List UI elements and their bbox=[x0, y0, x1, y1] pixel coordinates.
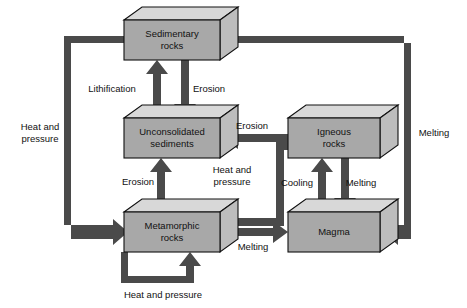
edge-label-erosion-sed-to-unc: Erosion bbox=[193, 83, 225, 94]
edge-label-erosion-ign-to-unc: Erosion bbox=[236, 120, 268, 131]
node-unconsolidated-sediments[interactable]: Unconsolidated sediments bbox=[124, 105, 238, 158]
node-label-unconsolidated-line2: sediments bbox=[150, 138, 194, 149]
node-label-metamorphic-line1: Metamorphic bbox=[145, 220, 200, 231]
edge-label-melting-met-to-magma: Melting bbox=[238, 241, 269, 252]
edge-heat-pressure-met-self bbox=[121, 252, 201, 283]
node-label-igneous-line1: Igneous bbox=[317, 126, 351, 137]
edge-label-heat-pressure-ign-to-met-line2: pressure bbox=[214, 176, 251, 187]
edge-label-heat-pressure-met-self: Heat and pressure bbox=[124, 289, 202, 300]
edge-label-heat-pressure-sed-to-met-line2: pressure bbox=[22, 133, 59, 144]
node-label-metamorphic-line2: rocks bbox=[161, 232, 184, 243]
edge-label-melting-ign-to-magma: Melting bbox=[346, 177, 377, 188]
edge-label-lithification: Lithification bbox=[88, 83, 136, 94]
edge-label-heat-pressure-ign-to-met-line1: Heat and bbox=[213, 164, 252, 175]
edge-label-cooling: Cooling bbox=[281, 177, 313, 188]
node-label-sedimentary-line1: Sedimentary bbox=[145, 28, 199, 39]
node-label-sedimentary-line2: rocks bbox=[161, 40, 184, 51]
rock-cycle-diagram: Sedimentary rocks Unconsolidated sedimen… bbox=[0, 0, 467, 308]
edge-label-melting-sed-to-magma: Melting bbox=[419, 127, 450, 138]
node-metamorphic-rocks[interactable]: Metamorphic rocks bbox=[124, 199, 238, 252]
node-label-igneous-line2: rocks bbox=[323, 138, 346, 149]
edge-label-heat-pressure-sed-to-met-line1: Heat and bbox=[21, 121, 60, 132]
edge-label-erosion-met-to-unc: Erosion bbox=[122, 176, 154, 187]
node-label-unconsolidated-line1: Unconsolidated bbox=[139, 126, 205, 137]
node-igneous-rocks[interactable]: Igneous rocks bbox=[288, 105, 398, 158]
node-magma[interactable]: Magma bbox=[288, 199, 398, 252]
edge-heat-pressure-sed-to-met bbox=[64, 36, 128, 245]
node-label-magma: Magma bbox=[318, 226, 350, 237]
node-sedimentary-rocks[interactable]: Sedimentary rocks bbox=[124, 7, 238, 60]
rock-cycle-canvas: Sedimentary rocks Unconsolidated sedimen… bbox=[0, 0, 467, 308]
